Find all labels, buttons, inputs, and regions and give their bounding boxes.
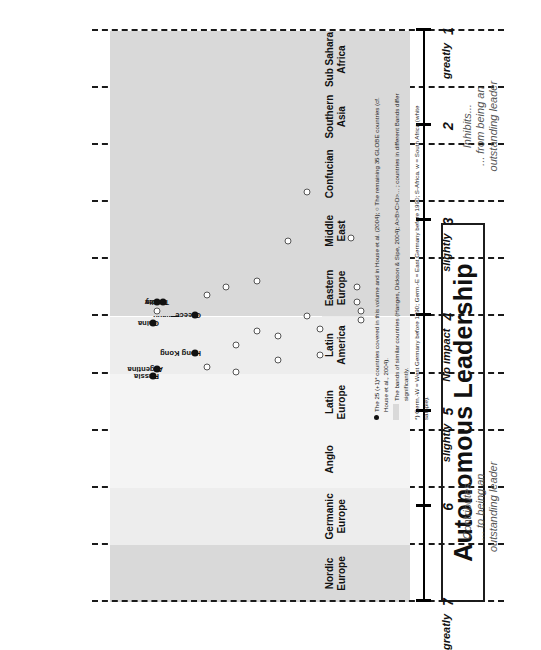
country-label: India: [145, 298, 163, 307]
axis-anchor-word: No impact: [440, 329, 452, 382]
country-label: Russia: [134, 372, 159, 381]
cluster-band: [110, 88, 410, 145]
cluster-band: [110, 431, 410, 488]
filled-dot-icon: [374, 415, 379, 420]
data-point-other: [222, 284, 229, 291]
band-swatch-icon: [393, 404, 399, 420]
footnote-row: The 25 (+1)* countries covered in this v…: [372, 90, 390, 420]
data-point-other: [304, 188, 311, 195]
data-point-other: [347, 235, 354, 242]
data-point-other: [233, 342, 240, 349]
axis-anchor-word: greatly: [440, 43, 452, 79]
data-point-other: [358, 307, 365, 314]
axis-tick: [416, 504, 431, 507]
cluster-band: [110, 31, 410, 88]
cluster-band: [110, 488, 410, 545]
data-point-other: [274, 357, 281, 364]
data-point-other: [285, 238, 292, 245]
footnote-text: *) Germ.-W = West Germany before 1990; G…: [412, 90, 430, 420]
axis-anchor-word: slightly: [440, 233, 452, 272]
data-point-other: [354, 284, 361, 291]
cluster-band: [110, 145, 410, 202]
data-point-other: [358, 317, 365, 324]
data-point-other: [316, 325, 323, 332]
axis-tick-label: 5: [440, 408, 456, 416]
data-point-other: [233, 368, 240, 375]
footnote-text: The bands of similar countries (Hanges, …: [392, 90, 410, 401]
data-point-other: [154, 307, 161, 314]
axis-tick-label: 7: [440, 598, 456, 606]
axis-tick: [416, 599, 431, 602]
cluster-label: Sub Sahara Africa: [324, 24, 348, 95]
axis-tick-label: 1: [440, 27, 456, 35]
data-point-other: [354, 299, 361, 306]
data-point-other: [254, 278, 261, 285]
country-label: Hong Kong: [160, 349, 201, 358]
axis-tick-label: 6: [440, 503, 456, 511]
axis-tick-label: 4: [440, 313, 456, 321]
data-point-other: [204, 291, 211, 298]
data-point-other: [316, 351, 323, 358]
axis-anchor-word: greatly: [440, 614, 452, 650]
anchor-inhibits: Inhibits... ... from being an outstandin…: [461, 68, 500, 184]
data-point-other: [254, 327, 261, 334]
anchor-contributes: Contributes... ... to being an outstandi…: [461, 449, 500, 565]
footnote-block: The 25 (+1)* countries covered in this v…: [372, 90, 432, 420]
data-point-other: [304, 312, 311, 319]
country-label: China: [138, 319, 159, 328]
axis-tick: [416, 28, 431, 31]
cluster-band: [110, 374, 410, 431]
axis-anchor-word: slightly: [440, 424, 452, 463]
data-point-other: [274, 332, 281, 339]
country-label: Greece: [175, 311, 201, 320]
axis-tick-label: 3: [440, 217, 456, 225]
cluster-band: [110, 545, 410, 602]
axis-tick-label: 2: [440, 122, 456, 130]
cluster-band: [110, 202, 410, 259]
footnote-text: The 25 (+1)* countries covered in this v…: [372, 90, 390, 412]
footnote-row: *) Germ.-W = West Germany before 1990; G…: [412, 90, 430, 420]
plot-area: FinlandSwedenAustriaGerm.-EGerm.-WSwitze…: [92, 31, 307, 602]
footnote-row: The bands of similar countries (Hanges, …: [392, 90, 410, 420]
data-point-other: [204, 363, 211, 370]
